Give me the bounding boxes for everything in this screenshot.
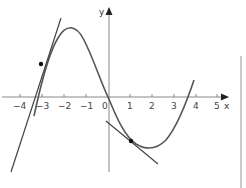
x-tick-label: −4 <box>13 101 27 111</box>
y-axis <box>106 7 113 172</box>
y-axis-arrow-icon <box>106 7 113 15</box>
x-tick-label: 3 <box>171 101 177 111</box>
cubic-curve <box>34 28 194 148</box>
tangent-point-left <box>39 62 43 66</box>
x-tick-label: 1 <box>127 101 133 111</box>
x-tick-label: −1 <box>80 101 93 111</box>
x-tick-label: 0 <box>102 101 108 111</box>
x-axis-label: x <box>224 101 230 111</box>
x-axis-arrow-icon <box>221 94 229 101</box>
tangent-point-right <box>129 139 133 143</box>
x-tick-label: −3 <box>36 101 49 111</box>
graph-figure: −4 −3 −2 −1 0 1 2 3 4 5 x y <box>0 0 246 188</box>
x-tick-label: 4 <box>193 101 199 111</box>
x-tick-label: 2 <box>149 101 155 111</box>
y-axis-label: y <box>99 7 105 17</box>
x-tick-label: 5 <box>214 101 220 111</box>
x-tick-label: −2 <box>58 101 71 111</box>
tangent-line-left <box>11 18 61 172</box>
